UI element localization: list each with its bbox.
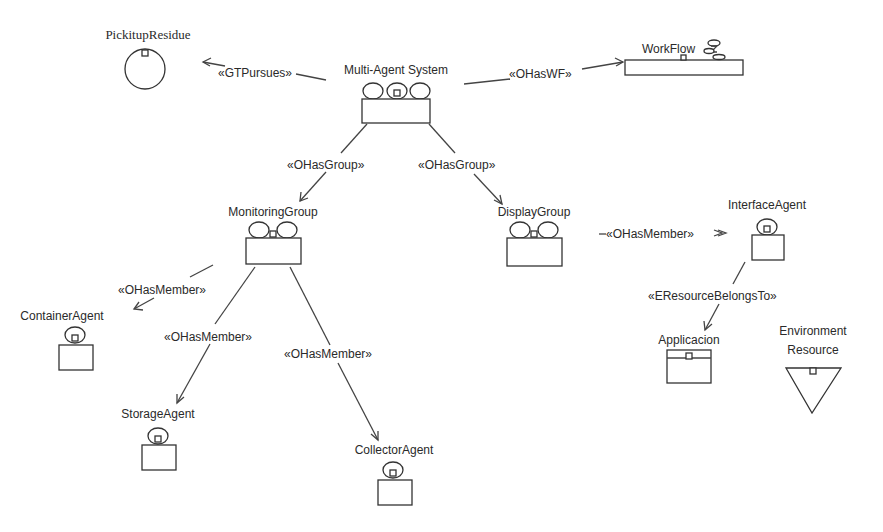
node-applicacion[interactable]: Applicacion (658, 333, 719, 383)
node-label: ContainerAgent (20, 309, 104, 323)
edge-line (177, 344, 210, 403)
edge-label: «OHasMember» (164, 330, 252, 344)
group-icon (246, 222, 301, 264)
anchor-icon (681, 55, 686, 60)
node-label: PickitupResidue (105, 27, 190, 42)
arrowhead-icon (203, 58, 211, 66)
node-workflow[interactable]: WorkFlow (625, 40, 743, 75)
edge-ohasmember-collector[interactable]: «OHasMember» (284, 267, 378, 440)
edge-ohasmember-container[interactable]: «OHasMember» (118, 265, 213, 310)
workflow-bar (625, 60, 743, 75)
edge-ohasmember-interface[interactable]: «OHasMember» (599, 227, 726, 241)
node-environment-resource[interactable]: Environment Resource (779, 324, 847, 413)
edge-label: «OHasMember» (118, 283, 206, 297)
edge-line (290, 267, 330, 345)
edge-eresourcebelongsto[interactable]: «EResourceBelongsTo» (648, 262, 777, 330)
edge-label: «OHasMember» (284, 347, 372, 361)
node-storage-agent[interactable]: StorageAgent (121, 407, 195, 470)
edge-line (474, 174, 502, 204)
agent-icon (59, 327, 93, 370)
edge-label: «OHasMember» (606, 227, 694, 241)
edge-line (300, 172, 326, 201)
node-label: DisplayGroup (498, 205, 571, 219)
node-multi-agent-system[interactable]: Multi-Agent System (344, 63, 448, 123)
edge-line (733, 262, 745, 284)
group-icon (507, 222, 562, 266)
edge-line (341, 124, 367, 153)
node-label: Environment (779, 324, 847, 338)
node-label: Resource (787, 343, 839, 357)
edge-line (429, 124, 455, 153)
node-display-group[interactable]: DisplayGroup (498, 205, 571, 266)
organization-diagram: «GTPursues» «OHasWF» «OHasGroup» «OHasGr… (0, 0, 883, 532)
node-interface-agent[interactable]: InterfaceAgent (728, 198, 807, 260)
node-label: WorkFlow (642, 42, 695, 56)
node-collector-agent[interactable]: CollectorAgent (355, 443, 434, 505)
edge-line (705, 304, 719, 330)
edge-line (296, 74, 326, 80)
node-monitoring-group[interactable]: MonitoringGroup (228, 205, 318, 264)
edge-label: «OHasGroup» (287, 158, 365, 172)
arrowhead-icon (615, 58, 623, 66)
application-icon (667, 350, 711, 383)
node-label: MonitoringGroup (228, 205, 318, 219)
arrowhead-icon (177, 394, 184, 403)
agent-icon (752, 219, 784, 260)
node-label: CollectorAgent (355, 443, 434, 457)
edge-line (338, 363, 378, 440)
edge-line (215, 267, 255, 324)
edge-line (464, 79, 510, 84)
node-container-agent[interactable]: ContainerAgent (20, 309, 104, 370)
edge-label: «OHasWF» (509, 67, 572, 81)
organization-icon (362, 83, 430, 123)
workflow-icon (704, 40, 725, 60)
edge-ohasgroup-monitoring[interactable]: «OHasGroup» (287, 124, 367, 201)
anchor-icon (142, 50, 148, 56)
node-label: Multi-Agent System (344, 63, 448, 77)
edge-label: «GTPursues» (218, 66, 292, 80)
edge-gtpursues[interactable]: «GTPursues» (203, 58, 326, 80)
resource-icon (786, 368, 841, 413)
node-label: Applicacion (658, 333, 719, 347)
edge-line (190, 265, 213, 277)
edge-ohasgroup-display[interactable]: «OHasGroup» (418, 124, 502, 204)
edge-label: «OHasGroup» (418, 158, 496, 172)
node-label: InterfaceAgent (728, 198, 807, 212)
agent-icon (142, 428, 176, 470)
agent-icon (378, 462, 412, 505)
edge-label: «EResourceBelongsTo» (648, 289, 777, 303)
node-pickitup-residue[interactable]: PickitupResidue (105, 27, 190, 89)
edge-ohaswf[interactable]: «OHasWF» (464, 58, 623, 84)
edge-line (134, 298, 154, 309)
node-label: StorageAgent (121, 407, 195, 421)
